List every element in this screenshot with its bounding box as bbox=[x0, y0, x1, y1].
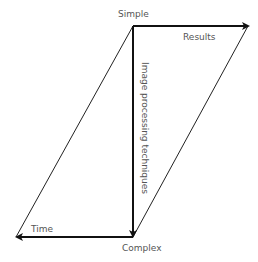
parallelogram-diagram bbox=[0, 0, 258, 262]
simple-label: Simple bbox=[118, 9, 149, 19]
image-processing-techniques-label: Image processing techniques bbox=[140, 62, 150, 194]
results-label: Results bbox=[183, 32, 216, 42]
left-diagonal-line bbox=[16, 26, 133, 237]
right-diagonal-line bbox=[133, 26, 248, 237]
diagram-canvas: Simple Results Time Complex Image proces… bbox=[0, 0, 258, 262]
complex-label: Complex bbox=[122, 243, 161, 253]
time-label: Time bbox=[31, 224, 53, 234]
